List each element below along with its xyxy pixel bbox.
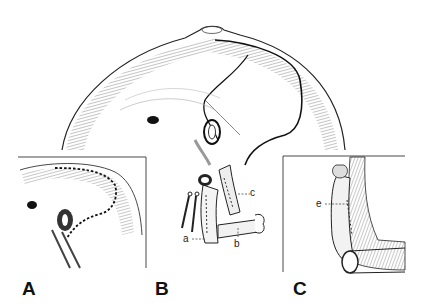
panel-label-c: C — [293, 279, 307, 298]
callout-c: c — [250, 188, 255, 198]
panel-label-a: A — [22, 279, 36, 298]
panel-b-vessels — [182, 165, 264, 243]
callout-a: a — [183, 234, 189, 244]
callout-e: e — [316, 199, 322, 209]
panel-a-inset — [18, 157, 146, 268]
panel-label-b: B — [155, 279, 169, 298]
panel-c-inset — [283, 156, 405, 273]
callout-b: b — [234, 239, 240, 249]
figure-canvas: A B C a b c e — [0, 0, 424, 306]
liver-main-outline — [62, 26, 345, 165]
illustration-drawing — [0, 0, 424, 306]
